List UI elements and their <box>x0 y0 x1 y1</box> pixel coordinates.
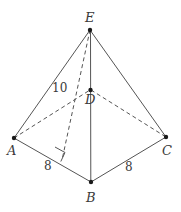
vertex-dot-B <box>89 180 93 184</box>
edge-EC <box>90 30 166 137</box>
vertex-label-A: A <box>7 144 16 157</box>
vertex-label-D: D <box>85 93 95 106</box>
vertex-dot-C <box>164 135 168 139</box>
base-edge-bc-label: 8 <box>125 161 133 173</box>
slant-height-label: 10 <box>52 82 67 94</box>
vertex-label-C: C <box>162 144 172 157</box>
base-edge-ab-label: 8 <box>44 160 52 172</box>
vertex-label-E: E <box>85 11 95 24</box>
vertex-dot-E <box>88 28 92 32</box>
edge-DC-hidden <box>91 90 166 137</box>
geometry-figure: E A B C D 10 8 8 <box>0 0 181 212</box>
edge-AD-hidden <box>14 90 90 138</box>
vertex-dot-A <box>12 136 16 140</box>
edge-AB <box>14 138 91 182</box>
vertex-label-B: B <box>86 191 96 204</box>
